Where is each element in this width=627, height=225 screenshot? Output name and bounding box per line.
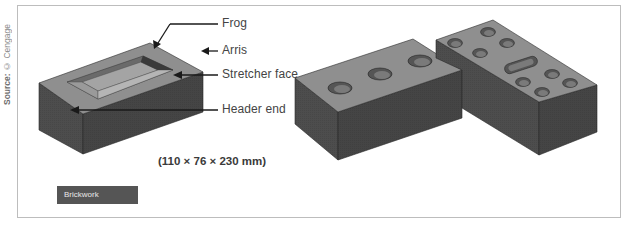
section-tag: Brickwork [57,186,138,204]
label-stretcher-face: Stretcher face [222,67,298,81]
brick-dimensions: (110 × 76 × 230 mm) [158,155,266,167]
label-frog: Frog [222,16,247,30]
label-header-end: Header end [222,102,286,116]
frogged-brick [39,43,203,154]
label-arris: Arris [222,43,247,57]
